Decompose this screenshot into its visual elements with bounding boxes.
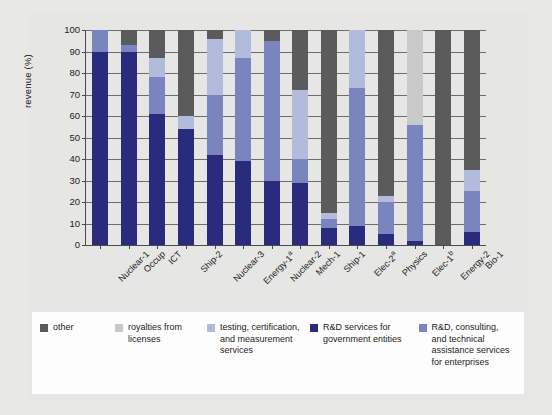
bar-segment (292, 30, 308, 90)
bar-segment (292, 183, 308, 245)
bar-segment (321, 30, 337, 213)
figure: revenue (%) 0102030405060708090100 Nucle… (28, 12, 528, 400)
bar-segment (349, 30, 365, 88)
bar-elec2[interactable] (349, 30, 365, 245)
x-tick-label: Physics (400, 249, 429, 278)
plot-area: revenue (%) 0102030405060708090100 Nucle… (28, 12, 528, 262)
bar-segment (464, 30, 480, 170)
bar-mech1[interactable] (292, 30, 308, 245)
legend-swatch-other (40, 324, 48, 332)
bar-nuclear3[interactable] (207, 30, 223, 245)
bar-segment (178, 129, 194, 245)
bar-segment (464, 232, 480, 245)
x-axis-tick-labels: Nuclear-1OccupICTShip-2Nuclear-3Energy-1… (85, 249, 485, 309)
y-tick-label: 100 (46, 25, 80, 35)
bar-energy2[interactable] (435, 30, 451, 245)
y-tick-label: 10 (46, 219, 80, 229)
bar-segment (378, 234, 394, 245)
y-tick-label: 0 (46, 240, 80, 250)
bar-ship2[interactable] (178, 30, 194, 245)
legend-item-testing[interactable]: testing, certification, and measurement … (207, 322, 304, 394)
bar-segment (207, 95, 223, 155)
bar-segment (349, 226, 365, 245)
bar-nuclear1[interactable] (92, 30, 108, 245)
bar-segment (378, 30, 394, 196)
y-tick-label: 70 (46, 90, 80, 100)
bar-group (86, 30, 486, 245)
legend-swatch-testing (207, 324, 215, 332)
bar-occup[interactable] (121, 30, 137, 245)
bar-segment (92, 30, 108, 52)
legend-label-other: other (53, 322, 74, 334)
legend-item-royalties[interactable]: royalties from licenses (115, 322, 201, 394)
y-tick-label: 30 (46, 176, 80, 186)
bar-segment (378, 202, 394, 234)
legend-swatch-rnd-government (310, 324, 318, 332)
axes (85, 30, 486, 246)
bar-segment (264, 181, 280, 246)
legend-item-rnd-enterprises[interactable]: R&D, consulting, and technical assistanc… (419, 322, 510, 394)
bar-segment (321, 219, 337, 228)
bar-physics[interactable] (378, 30, 394, 245)
bar-segment (207, 39, 223, 95)
bar-segment (207, 30, 223, 39)
bar-segment (464, 191, 480, 232)
bar-segment (407, 125, 423, 241)
bar-segment (149, 58, 165, 77)
bar-ict[interactable] (149, 30, 165, 245)
x-tick-label: Elec-2a (371, 249, 400, 278)
x-tick-label: ICT (167, 249, 184, 266)
bar-segment (149, 77, 165, 114)
y-tick-label: 80 (46, 68, 80, 78)
bar-segment (292, 159, 308, 183)
bar-segment (292, 90, 308, 159)
bar-segment (464, 170, 480, 192)
bar-segment (149, 30, 165, 58)
y-tick-label: 60 (46, 111, 80, 121)
bar-energy1[interactable] (235, 30, 251, 245)
bar-segment (92, 52, 108, 246)
legend-item-other[interactable]: other (40, 322, 109, 394)
legend-label-rnd-enterprises: R&D, consulting, and technical assistanc… (432, 322, 510, 368)
bar-segment (121, 30, 137, 45)
y-tick-label: 50 (46, 133, 80, 143)
bar-segment (121, 52, 137, 246)
y-tick-label: 90 (46, 47, 80, 57)
bar-segment (149, 114, 165, 245)
x-tick-label: Ship-2 (199, 249, 224, 274)
bar-segment (235, 58, 251, 161)
y-axis-label: revenue (%) (22, 54, 33, 108)
bar-segment (264, 41, 280, 181)
bar-elec1[interactable] (407, 30, 423, 245)
legend-item-rnd-government[interactable]: R&D services for government entities (310, 322, 413, 394)
bar-segment (321, 228, 337, 245)
bar-segment (207, 155, 223, 245)
bar-nuclear2[interactable] (264, 30, 280, 245)
bar-segment (178, 30, 194, 116)
bar-segment (349, 88, 365, 226)
legend-label-testing: testing, certification, and measurement … (220, 322, 304, 357)
legend-label-rnd-government: R&D services for government entities (323, 322, 413, 345)
bar-segment (264, 30, 280, 41)
legend-swatch-royalties (115, 324, 123, 332)
bar-segment (235, 161, 251, 245)
bar-ship1[interactable] (321, 30, 337, 245)
chart-legend: other royalties from licenses testing, c… (32, 312, 524, 394)
x-tick-label: Elec-1b (428, 249, 457, 278)
bar-bio1[interactable] (464, 30, 480, 245)
bar-segment (178, 116, 194, 129)
bar-segment (435, 30, 451, 245)
y-tick-label: 20 (46, 197, 80, 207)
y-tickmark (82, 245, 86, 246)
y-axis-tick-labels: 0102030405060708090100 (46, 30, 80, 245)
bar-segment (235, 30, 251, 58)
y-tick-label: 40 (46, 154, 80, 164)
legend-label-royalties: royalties from licenses (128, 322, 201, 345)
bar-segment (407, 30, 423, 125)
legend-swatch-rnd-enterprises (419, 324, 427, 332)
x-tick-label: Ship-1 (341, 249, 366, 274)
